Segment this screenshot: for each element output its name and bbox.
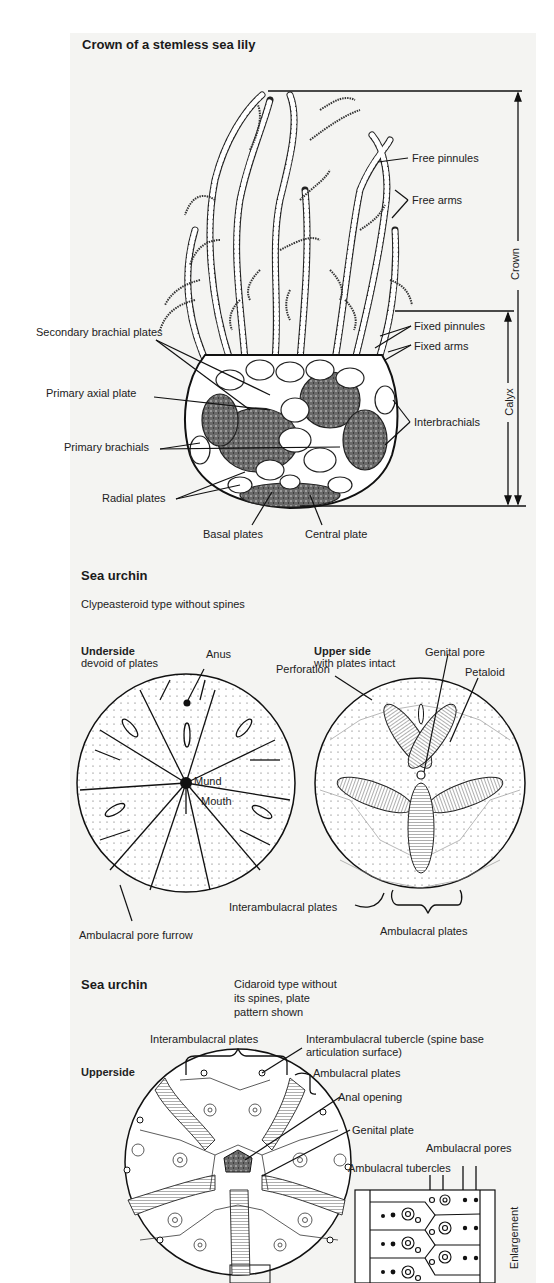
cidaroid-subtitle-line-1: Cidaroid type without bbox=[234, 978, 337, 991]
label-interbrachials: Interbrachials bbox=[414, 416, 480, 429]
clypeasteroid-subtitle: Clypeasteroid type without spines bbox=[81, 598, 245, 611]
label-mund: Mund bbox=[194, 775, 222, 788]
label-free-pinnules: Free pinnules bbox=[412, 152, 479, 165]
label-ambulacral-pores: Ambulacral pores bbox=[426, 1142, 512, 1155]
label-genital-plate: Genital plate bbox=[352, 1124, 414, 1137]
label-perforation: Perforation bbox=[276, 663, 330, 676]
label-radial-plates: Radial plates bbox=[102, 492, 166, 505]
dimension-crown: Crown bbox=[509, 246, 521, 282]
label-ambulacral-tubercles: Ambulacral tubercles bbox=[348, 1162, 451, 1175]
label-central-plate: Central plate bbox=[305, 528, 367, 541]
label-primary-brachials: Primary brachials bbox=[64, 441, 149, 454]
label-petaloid: Petaloid bbox=[465, 666, 505, 679]
label-mouth: Mouth bbox=[201, 795, 232, 808]
label-enlargement: Enlargement bbox=[508, 1205, 520, 1271]
illustration-layer bbox=[0, 0, 554, 1283]
clypeasteroid-underside-drawing bbox=[77, 669, 295, 921]
label-cidaroid-interambulacral-plates: Interambulacral plates bbox=[150, 1033, 258, 1046]
clypeasteroid-title: Sea urchin bbox=[81, 568, 147, 583]
label-genital-pore: Genital pore bbox=[425, 646, 485, 659]
clypeasteroid-upperside-drawing bbox=[315, 654, 525, 913]
label-interambulacral-tubercle-line-1: Interambulacral tubercle (spine base bbox=[306, 1033, 484, 1046]
label-interambulacral-tubercle-line-2: articulation surface) bbox=[306, 1046, 402, 1059]
cidaroid-view-heading: Upperside bbox=[81, 1066, 135, 1079]
label-fixed-arms: Fixed arms bbox=[414, 340, 468, 353]
underside-subheading: devoid of plates bbox=[81, 657, 158, 670]
sea-lily-title: Crown of a stemless sea lily bbox=[82, 37, 255, 52]
label-secondary-brachial-plates: Secondary brachial plates bbox=[36, 326, 163, 339]
label-fixed-pinnules: Fixed pinnules bbox=[414, 320, 485, 333]
label-ambulacral-plates: Ambulacral plates bbox=[380, 925, 467, 938]
dimension-calyx: Calyx bbox=[503, 386, 515, 418]
label-anal-opening: Anal opening bbox=[338, 1091, 402, 1104]
label-primary-axial-plate: Primary axial plate bbox=[46, 387, 136, 400]
label-basal-plates: Basal plates bbox=[203, 528, 263, 541]
cidaroid-subtitle-line-2: its spines, plate bbox=[234, 992, 310, 1005]
cidaroid-subtitle-line-3: pattern shown bbox=[234, 1006, 303, 1019]
enlargement-box bbox=[355, 1190, 495, 1283]
label-ambulacral-pore-furrow: Ambulacral pore furrow bbox=[79, 929, 193, 942]
label-cidaroid-ambulacral-plates: Ambulacral plates bbox=[313, 1067, 400, 1080]
label-interambulacral-plates: Interambulacral plates bbox=[229, 901, 337, 914]
cidaroid-title: Sea urchin bbox=[81, 977, 147, 992]
label-anus: Anus bbox=[206, 648, 231, 661]
label-free-arms: Free arms bbox=[412, 194, 462, 207]
